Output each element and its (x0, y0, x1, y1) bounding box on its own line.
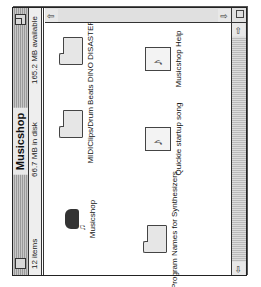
icon-label: Program Names for Synthesizers (170, 189, 179, 287)
rotated-stage: Musicshop 12 items 66.7 MB in disk 165.2… (12, 7, 247, 276)
document-icon (145, 47, 171, 71)
finder-window: Musicshop 12 items 66.7 MB in disk 165.2… (12, 7, 247, 276)
title-bar[interactable]: Musicshop (13, 8, 29, 275)
close-box[interactable] (15, 258, 26, 269)
window-title: Musicshop (13, 108, 28, 175)
icon-musicshop-app[interactable]: ♫ Musicshop (59, 169, 97, 269)
horizontal-scrollbar[interactable]: ⇦ ⇨ (231, 23, 246, 275)
scroll-right-arrow-icon[interactable]: ⇨ (232, 23, 245, 36)
horizontal-scroll-track[interactable] (232, 37, 246, 261)
scroll-up-arrow-icon[interactable]: ⇧ (45, 9, 58, 22)
folder-icon (63, 37, 83, 65)
disk-used: 66.7 MB in disk (29, 122, 41, 177)
folder-icon (63, 110, 83, 138)
item-count: 12 items (29, 239, 41, 269)
zoom-box[interactable] (15, 14, 26, 25)
vertical-scrollbar[interactable]: ⇧ ⇩ (45, 8, 231, 23)
info-bar: 12 items 66.7 MB in disk 165.2 MB availa… (29, 8, 42, 275)
scroll-down-arrow-icon[interactable]: ⇩ (218, 9, 231, 22)
icon-label: Musicshop (88, 169, 97, 269)
scroll-left-arrow-icon[interactable]: ⇦ (232, 262, 245, 275)
icon-view: ♫ Musicshop MIDIClips/Drum Beats DINO DI… (45, 23, 231, 275)
disk-available: 165.2 MB available (29, 16, 41, 84)
folder-icon (147, 225, 167, 253)
resize-box[interactable] (231, 8, 246, 23)
icon-program-names-folder[interactable]: Program Names for Synthesizers (147, 189, 179, 287)
icon-musicshop-help[interactable]: Musicshop Help (145, 9, 183, 109)
icon-label: Musicshop Help (174, 9, 183, 109)
divider (43, 8, 44, 275)
document-icon (145, 127, 171, 151)
application-icon: ♫ (59, 205, 85, 233)
